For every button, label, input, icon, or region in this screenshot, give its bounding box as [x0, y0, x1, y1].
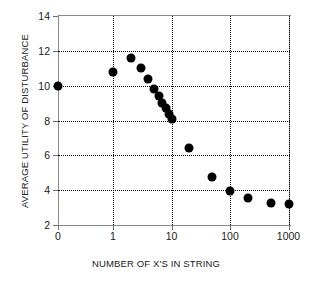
data-point: [54, 81, 63, 90]
y-tick-label: 14: [38, 10, 50, 22]
data-point: [226, 187, 235, 196]
chart-figure: AVERAGE UTILITY OF DISTURBANCE 246810121…: [0, 0, 312, 283]
y-tick-mark: [53, 155, 58, 156]
y-tick-label: 2: [44, 219, 50, 231]
axis-line-bottom: [58, 225, 291, 226]
data-point: [136, 64, 145, 73]
axis-line-top: [58, 15, 291, 16]
y-tick-label: 4: [44, 184, 50, 196]
data-point: [284, 200, 293, 209]
x-tick-label: 10: [166, 230, 178, 242]
gridline-horizontal: [58, 155, 290, 156]
gridline-vertical: [289, 16, 290, 225]
data-point: [266, 199, 275, 208]
y-tick-label: 12: [38, 45, 50, 57]
y-tick-label: 10: [38, 80, 50, 92]
data-point: [126, 53, 135, 62]
data-point: [109, 67, 118, 76]
data-point: [243, 194, 252, 203]
y-tick-mark: [53, 121, 58, 122]
y-tick-mark: [53, 51, 58, 52]
y-tick-mark: [53, 190, 58, 191]
x-tick-label: 100: [221, 230, 239, 242]
gridline-vertical: [113, 16, 114, 225]
y-tick-label: 8: [44, 115, 50, 127]
gridline-horizontal: [58, 51, 290, 52]
plot-area: 2468101214 01101001000: [58, 16, 290, 225]
gridline-horizontal: [58, 190, 290, 191]
x-tick-label: 1: [110, 230, 116, 242]
gridline-horizontal: [58, 86, 290, 87]
x-tick-label: 1000: [277, 230, 300, 242]
y-tick-label: 6: [44, 149, 50, 161]
y-tick-mark: [53, 16, 58, 17]
data-point: [144, 74, 153, 83]
data-point: [167, 114, 176, 123]
y-axis-label: AVERAGE UTILITY OF DISTURBANCE: [14, 6, 36, 236]
x-axis-label: NUMBER OF X'S IN STRING: [0, 258, 312, 269]
data-point: [185, 144, 194, 153]
data-point: [208, 173, 217, 182]
x-tick-label: 0: [55, 230, 61, 242]
